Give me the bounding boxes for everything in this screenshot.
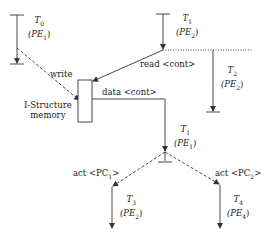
data-edge [92, 99, 165, 151]
write-label: write [50, 69, 73, 79]
thread-t2-label: T2 (PE2) [221, 65, 243, 92]
read-label: read <cont> [140, 59, 195, 69]
thread-t1-pe2-label: T1 (PE2) [176, 13, 198, 40]
act-pc2-edge [165, 152, 219, 184]
thread-t1-pe1-label: T1 (PE1) [174, 124, 196, 151]
thread-t1-pe2-line [156, 14, 170, 49]
thread-t4-label: T4 (PE4) [227, 194, 249, 221]
thread-t2-line [206, 50, 220, 112]
istructure-memory-label: I-Structure memory [24, 100, 72, 120]
act-pc1-edge [113, 152, 165, 186]
thread-t0-line [10, 15, 24, 64]
istructure-memory-box [78, 80, 92, 122]
thread-t3-label: T3 (PE2) [120, 194, 142, 221]
data-label: data <cont> [102, 87, 157, 97]
act-pc1-label: act <PC1> [73, 168, 119, 182]
act-pc2-label: act <PC2> [215, 168, 261, 182]
thread-t0-label: T0 (PE1) [28, 15, 50, 42]
